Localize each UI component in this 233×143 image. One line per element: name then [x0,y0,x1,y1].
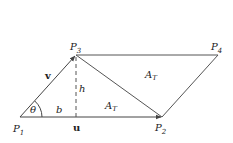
label-vector-v: v [44,70,52,81]
label-vector-u: u [73,122,80,133]
label-area-upper: AT [144,69,158,82]
label-p3: P3 [69,41,82,55]
diagonal-p3-p2 [76,55,162,117]
label-p4: P4 [210,41,222,55]
label-h: h [79,83,85,94]
label-p2: P2 [154,122,167,136]
edge-p4-p2 [162,55,218,117]
vector-v [20,56,75,117]
label-area-lower: AT [104,100,118,113]
label-theta: θ [30,104,36,115]
label-p1: P1 [12,123,24,137]
parallelogram-diagram: P1 P2 P3 P4 v u θ b h AT AT [0,0,233,143]
label-b: b [56,104,62,115]
